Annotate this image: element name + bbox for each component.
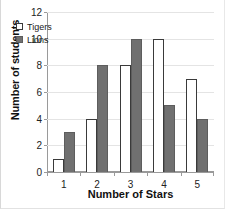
x-tick-mark-3	[147, 172, 148, 176]
bar-tigers-3	[120, 65, 131, 172]
hollow-square-icon	[16, 23, 23, 30]
x-tick-mark-1	[80, 172, 81, 176]
gridline-y-0	[47, 172, 214, 173]
bar-tigers-4	[153, 39, 164, 172]
bar-lions-4	[164, 105, 175, 172]
bar-lions-2	[97, 65, 108, 172]
legend-item-lions[interactable]: Lions	[16, 33, 52, 46]
y-tick-label-0: 0	[36, 167, 42, 178]
bar-group-4: 4	[147, 12, 180, 172]
plot-area: 024681012 12345	[47, 12, 214, 172]
bar-chart-figure: Number of students 024681012 12345 Tiger…	[0, 0, 225, 209]
bar-tigers-1	[53, 159, 64, 172]
chart-legend: TigersLions	[13, 18, 55, 48]
y-tick-label-6: 6	[36, 87, 42, 98]
x-axis-title: Number of Stars	[47, 188, 214, 200]
y-tick-label-2: 2	[36, 140, 42, 151]
x-tick-mark-4	[181, 172, 182, 176]
y-tick-label-8: 8	[36, 60, 42, 71]
bar-group-5: 5	[181, 12, 214, 172]
legend-label-lions: Lions	[27, 35, 49, 45]
bar-group-2: 2	[80, 12, 113, 172]
bar-lions-1	[64, 132, 75, 172]
filled-square-icon	[16, 36, 23, 43]
x-tick-mark-end	[213, 172, 214, 176]
bar-tigers-2	[86, 119, 97, 172]
bar-tigers-5	[186, 79, 197, 172]
y-tick-label-12: 12	[31, 7, 42, 18]
y-tick-label-4: 4	[36, 113, 42, 124]
x-tick-mark-0	[47, 172, 48, 176]
bar-group-3: 3	[114, 12, 147, 172]
bar-groups: 12345	[47, 12, 214, 172]
bar-lions-3	[131, 39, 142, 172]
legend-item-tigers[interactable]: Tigers	[16, 20, 52, 33]
bar-lions-5	[197, 119, 208, 172]
legend-label-tigers: Tigers	[27, 22, 52, 32]
x-tick-mark-2	[114, 172, 115, 176]
